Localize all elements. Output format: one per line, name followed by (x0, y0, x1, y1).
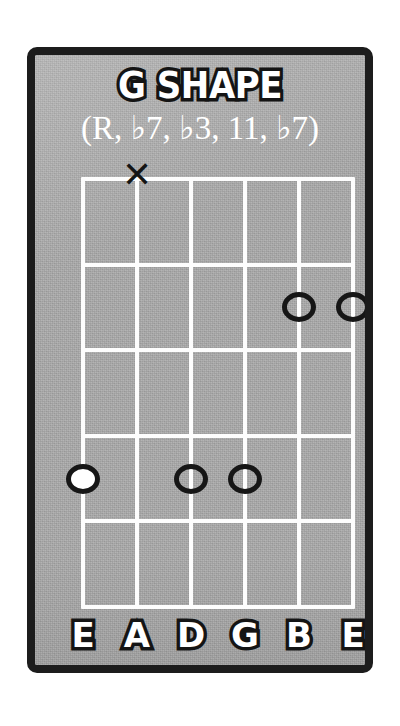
fret-line-4 (81, 519, 355, 523)
fret-line-2 (81, 348, 355, 352)
mute-marker-a: ✕ (120, 157, 154, 193)
fretboard-grid: ✕ (83, 179, 353, 607)
string-label-g: G (225, 615, 265, 655)
finger-dot-d-fret4 (174, 464, 208, 494)
root-dot-low-e-fret4 (66, 464, 100, 494)
string-label-d: D (171, 615, 211, 655)
string-line-g (243, 179, 247, 607)
diagram-stage: G SHAPE (R, ♭7, ♭3, 11, ♭7) ✕ EADGBE (0, 0, 400, 726)
string-label-row: EADGBE (83, 615, 353, 661)
page-title: G SHAPE (48, 67, 352, 104)
finger-dot-g-fret4 (228, 464, 262, 494)
finger-dot-b-fret2 (282, 292, 316, 322)
string-label-high-e: E (333, 615, 373, 655)
string-line-low-e (81, 179, 85, 607)
string-line-high-e (351, 179, 355, 607)
string-line-a (135, 179, 139, 607)
fret-line-3 (81, 434, 355, 438)
chord-card: G SHAPE (R, ♭7, ♭3, 11, ♭7) ✕ EADGBE (27, 47, 373, 673)
string-line-d (189, 179, 193, 607)
string-label-a: A (117, 615, 157, 655)
string-label-b: B (279, 615, 319, 655)
string-line-b (297, 179, 301, 607)
string-label-low-e: E (63, 615, 103, 655)
fret-line-1 (81, 263, 355, 267)
fret-line-5 (81, 605, 355, 609)
chord-intervals-subtitle: (R, ♭7, ♭3, 11, ♭7) (35, 112, 365, 145)
